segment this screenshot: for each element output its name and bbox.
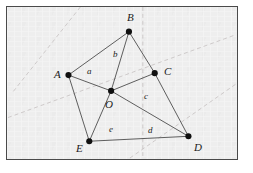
vertex-a-dot [65, 72, 71, 78]
vertex-b-dot [126, 29, 132, 35]
geometry-figure: ABCODEabcde [0, 0, 253, 173]
guide-lines-group [8, 7, 236, 158]
segment-ed [89, 136, 188, 141]
segment-ao [68, 75, 111, 91]
segment-od [111, 91, 188, 136]
segment-bc [129, 32, 155, 73]
segment-oe [89, 91, 111, 141]
segment-ab [68, 32, 128, 75]
guide-line-diagonal-lower [8, 35, 236, 118]
segment-ae [68, 75, 89, 141]
vertex-o-dot [108, 88, 114, 94]
guide-line-upper-left [13, 7, 80, 92]
vertex-c-dot [152, 70, 158, 76]
diagram-paper: ABCODEabcde [6, 6, 238, 160]
segments-group [68, 32, 188, 142]
guide-line-diagonal-right [130, 84, 236, 158]
diagram-canvas [7, 7, 237, 159]
vertex-d-dot [185, 133, 191, 139]
segment-bo [111, 32, 129, 91]
vertex-e-dot [86, 138, 92, 144]
segment-oc [111, 73, 155, 91]
